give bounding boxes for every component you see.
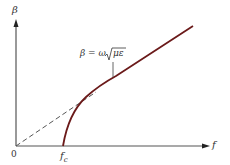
cutoff-label-subscript: c	[64, 156, 68, 164]
x-axis-arrow-icon	[202, 144, 210, 149]
y-axis-arrow-icon	[14, 19, 19, 27]
formula-sqrt-argument: με	[113, 49, 124, 58]
formula-lhs: β = ω	[80, 49, 106, 58]
y-axis-label: β	[12, 5, 18, 15]
diagram-canvas	[0, 0, 230, 165]
dispersion-diagram: β f 0 fc β = ω με	[0, 0, 230, 165]
cutoff-frequency-label: fc	[60, 151, 68, 164]
dispersion-curve	[63, 26, 193, 146]
origin-label: 0	[11, 150, 17, 159]
x-axis-label: f	[212, 140, 216, 150]
